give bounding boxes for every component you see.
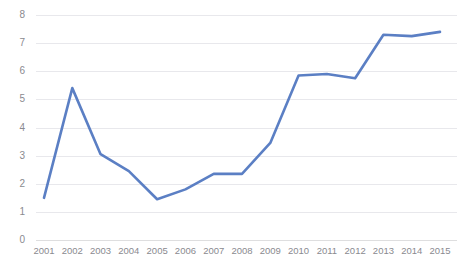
series-layer bbox=[0, 0, 463, 274]
x-tick-label-2015: 2015 bbox=[420, 246, 460, 256]
line-chart: 012345678 200120022003200420052006200720… bbox=[0, 0, 463, 274]
series-line-series-1 bbox=[44, 32, 440, 199]
x-axis-tick-labels: 2001200220032004200520062007200820092010… bbox=[36, 246, 457, 266]
